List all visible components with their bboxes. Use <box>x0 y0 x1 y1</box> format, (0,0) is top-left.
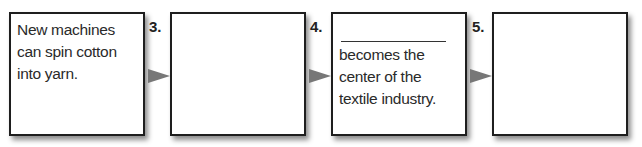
arrow-right-icon <box>148 69 170 83</box>
flow-box-3: becomes the center of the textile indust… <box>331 12 467 136</box>
arrow-right-icon <box>470 69 492 83</box>
flow-box-1: New machines can spin cotton into yarn. <box>9 12 145 136</box>
fill-in-blank-line[interactable] <box>341 19 446 42</box>
box-2-number: 3. <box>149 18 162 35</box>
box-3-number: 4. <box>310 18 323 35</box>
box-1-text: New machines can spin cotton into yarn. <box>17 19 137 85</box>
flow-box-4[interactable] <box>492 12 628 136</box>
flow-box-2[interactable] <box>170 12 306 136</box>
arrow-right-icon <box>309 69 331 83</box>
box-3-content: becomes the center of the textile indust… <box>339 19 459 110</box>
box-3-text: becomes the center of the textile indust… <box>339 46 436 107</box>
box-4-number: 5. <box>472 18 485 35</box>
